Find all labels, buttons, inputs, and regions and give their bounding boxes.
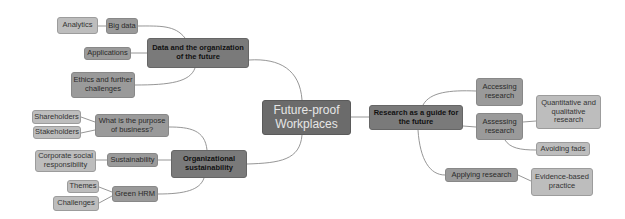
assessing-node[interactable]: Assessing research <box>476 113 523 140</box>
big-data-node[interactable]: Big data <box>106 18 138 34</box>
purpose-node[interactable]: What is the purpose of business? <box>95 114 169 137</box>
sustainability-node[interactable]: Sustainability <box>107 153 158 167</box>
applying-node[interactable]: Applying research <box>445 168 518 182</box>
applications-node[interactable]: Applications <box>84 47 131 60</box>
themes-node[interactable]: Themes <box>67 180 99 193</box>
branch-research-node[interactable]: Research as a guide for the future <box>369 105 463 130</box>
csr-node[interactable]: Corporate social responsibility <box>35 150 96 172</box>
avoiding-fads-node[interactable]: Avoiding fads <box>536 142 590 156</box>
green-hrm-node[interactable]: Green HRM <box>112 186 158 202</box>
branch-data-node[interactable]: Data and the organization of the future <box>147 38 249 68</box>
stakeholders-node[interactable]: Stakeholders <box>33 126 81 139</box>
analytics-node[interactable]: Analytics <box>57 17 98 34</box>
challenges-node[interactable]: Challenges <box>53 196 99 211</box>
shareholders-node[interactable]: Shareholders <box>32 110 81 124</box>
quant-qual-node[interactable]: Quantitative and qualitative research <box>536 95 601 129</box>
root-node[interactable]: Future-proof Workplaces <box>262 100 351 135</box>
evidence-node[interactable]: Evidence-based practice <box>531 168 593 196</box>
branch-org-node[interactable]: Organizational sustainability <box>171 150 247 178</box>
accessing-node[interactable]: Accessing research <box>476 78 523 106</box>
ethics-node[interactable]: Ethics and further challenges <box>71 72 135 98</box>
